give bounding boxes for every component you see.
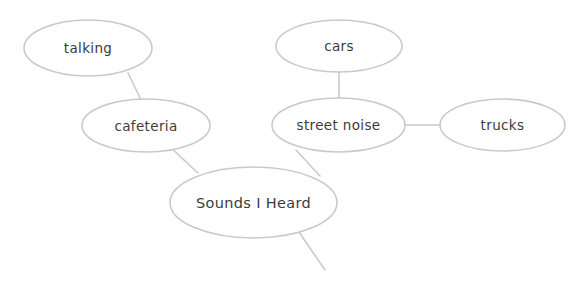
nodes-layer: talkingcafeteriacarsstreet noisetrucksSo… [24,20,565,238]
node-street-noise[interactable]: street noise [272,98,405,152]
node-label-cafeteria: cafeteria [114,118,177,134]
concept-map-canvas: talkingcafeteriacarsstreet noisetrucksSo… [0,0,580,282]
node-label-sounds-i-heard: Sounds I Heard [196,195,311,211]
node-label-cars: cars [324,38,354,54]
node-cafeteria[interactable]: cafeteria [82,99,210,152]
node-label-trucks: trucks [481,117,525,133]
edge-cafeteria-center [170,147,198,173]
node-trucks[interactable]: trucks [440,99,565,151]
node-label-street-noise: street noise [297,117,381,133]
node-talking[interactable]: talking [24,20,152,76]
node-cars[interactable]: cars [276,20,402,72]
concept-map-svg: talkingcafeteriacarsstreet noisetrucksSo… [0,0,580,282]
edge-center-unconnected-stub [299,232,325,270]
node-label-talking: talking [64,40,112,56]
node-sounds-i-heard[interactable]: Sounds I Heard [170,167,337,238]
